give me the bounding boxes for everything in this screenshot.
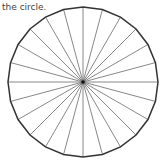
- spoke-line: [83, 63, 155, 82]
- spoke-line: [83, 82, 155, 101]
- spoke-line: [11, 63, 83, 82]
- spoke-line: [83, 10, 102, 82]
- spoke-line: [11, 82, 83, 101]
- center-point: [81, 80, 85, 84]
- spoke-line: [64, 82, 83, 154]
- spoke-line: [64, 10, 83, 82]
- spoke-line: [83, 82, 102, 154]
- divided-circle-diagram: [0, 0, 164, 164]
